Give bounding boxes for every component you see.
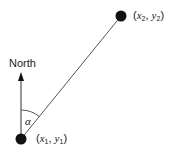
point2-label: (x2, y2) — [133, 9, 164, 22]
point1-dot — [16, 134, 27, 145]
connecting-line — [21, 16, 121, 139]
bearing-diagram: North α (x1, y1) (x2, y2) — [0, 0, 177, 154]
point1-label: (x1, y1) — [36, 132, 67, 145]
point1-close-paren: ) — [63, 132, 67, 144]
north-arrow-icon — [18, 72, 24, 81]
north-label: North — [9, 57, 36, 69]
point2-close-paren: ) — [160, 9, 164, 21]
angle-label: α — [25, 115, 31, 127]
point2-dot — [116, 11, 127, 22]
